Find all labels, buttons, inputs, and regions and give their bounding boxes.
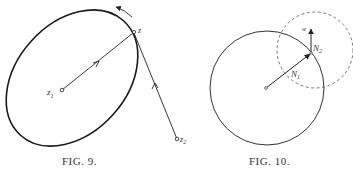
- point-z2: [175, 137, 179, 141]
- figures-canvas: z z1 z2 w N2 N1: [0, 0, 353, 174]
- point-z1: [60, 88, 64, 92]
- caption-fig-10: FIG. 10.: [249, 155, 290, 167]
- label-z1: z1: [46, 87, 54, 99]
- label-n2: N2: [312, 43, 322, 54]
- label-n1: N1: [290, 69, 300, 80]
- point-z: [132, 30, 135, 33]
- caption-fig-9: FIG. 9.: [62, 155, 97, 167]
- center-point: [265, 87, 268, 90]
- orientation-arrow-icon: [116, 7, 132, 17]
- arrowhead-z2-icon: [152, 83, 158, 89]
- label-z2: z2: [179, 135, 186, 145]
- label-w: w: [302, 26, 306, 32]
- figure-9: z z1 z2: [0, 0, 186, 172]
- radial-vector: [266, 54, 310, 88]
- boundary-point: [310, 52, 312, 54]
- figure-10: w N2 N1: [210, 12, 353, 145]
- label-z: z: [137, 26, 142, 35]
- vector-z2-to-z: [134, 33, 177, 139]
